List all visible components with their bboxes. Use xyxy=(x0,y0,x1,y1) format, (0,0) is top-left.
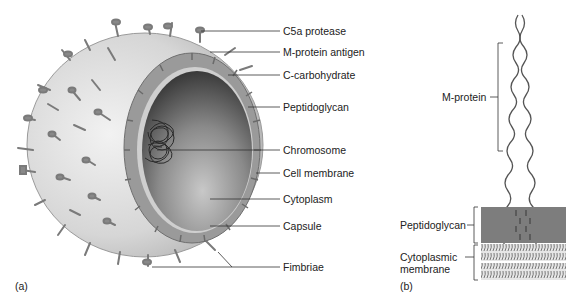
cell-illustration xyxy=(18,20,263,267)
label-cell-membrane: Cell membrane xyxy=(283,167,354,179)
label-cytoplasmic: Cytoplasmic xyxy=(400,251,457,263)
label-chromosome: Chromosome xyxy=(283,144,346,156)
label-m-protein: M-protein xyxy=(442,91,486,103)
peptidoglycan-layer xyxy=(481,207,566,243)
label-peptidoglycan-b: Peptidoglycan xyxy=(400,219,466,231)
label-cytoplasm: Cytoplasm xyxy=(283,193,333,205)
label-peptidoglycan: Peptidoglycan xyxy=(283,101,349,113)
label-c-carbohydrate: C-carbohydrate xyxy=(283,69,355,81)
label-fimbriae: Fimbriae xyxy=(283,261,324,273)
label-c5a-protease: C5a protease xyxy=(283,25,346,37)
label-capsule: Capsule xyxy=(283,220,322,232)
label-membrane: membrane xyxy=(400,263,450,275)
panel-label-a: (a) xyxy=(15,280,28,292)
label-m-protein-antigen: M-protein antigen xyxy=(283,46,365,58)
cell-wall-detail xyxy=(465,15,566,280)
panel-label-b: (b) xyxy=(400,280,413,292)
